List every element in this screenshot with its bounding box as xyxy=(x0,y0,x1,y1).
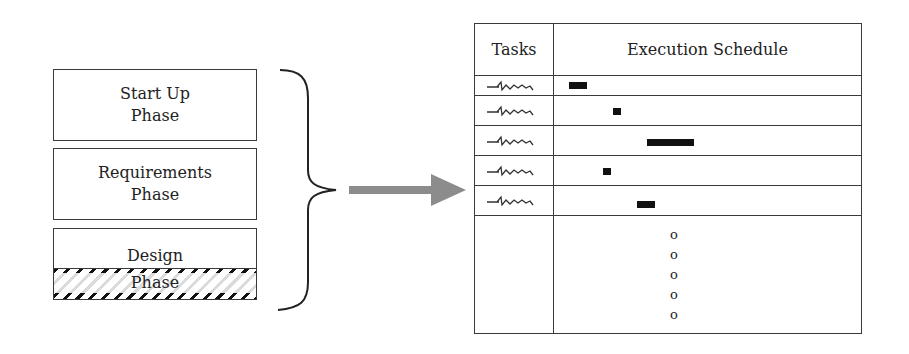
continuation-dot: o xyxy=(668,305,680,325)
table-row xyxy=(475,125,861,156)
continuation-dots: o o o o o xyxy=(668,225,680,325)
squiggle-icon xyxy=(485,165,541,177)
table-row xyxy=(475,185,861,216)
continuation-dot: o xyxy=(668,245,680,265)
right-curly-brace-icon xyxy=(278,70,336,310)
squiggle-icon xyxy=(485,135,541,147)
schedule-bar xyxy=(637,201,655,208)
continuation-dot: o xyxy=(668,225,680,245)
schedule-bar xyxy=(647,139,694,146)
schedule-bar xyxy=(603,168,611,175)
squiggle-icon xyxy=(485,105,541,117)
execution-schedule-table: Tasks Execution Schedule o o o o o xyxy=(474,23,862,334)
header-execution-schedule: Execution Schedule xyxy=(554,24,861,75)
phase-design-line2: Phase xyxy=(54,273,256,293)
continuation-dot: o xyxy=(668,285,680,305)
table-row xyxy=(475,95,861,126)
squiggle-icon xyxy=(485,80,541,92)
arrow-shaft xyxy=(349,186,433,194)
continuation-dot: o xyxy=(668,265,680,285)
schedule-bar xyxy=(613,108,621,115)
header-tasks: Tasks xyxy=(475,24,553,75)
squiggle-icon xyxy=(485,195,541,207)
schedule-bar xyxy=(569,82,587,89)
arrow-head-icon xyxy=(431,174,466,206)
table-row xyxy=(475,75,861,96)
table-row xyxy=(475,155,861,186)
